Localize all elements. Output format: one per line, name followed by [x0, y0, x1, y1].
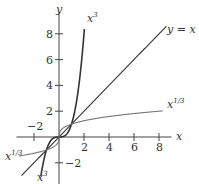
identity-label: y = x: [166, 23, 196, 36]
y-tick-label: −2: [65, 157, 81, 170]
y-tick-label: 6: [46, 54, 53, 67]
cube-label-bottom: x3: [37, 170, 48, 184]
axes: [17, 13, 172, 184]
cube-label-top: x3: [87, 11, 98, 25]
curve-x3: [41, 29, 84, 176]
curve-cbrtx: [19, 111, 163, 156]
x-tick-label: −2: [27, 120, 43, 133]
curves: [19, 26, 167, 176]
x-tick-label: 6: [131, 141, 138, 154]
x-axis-label: x: [176, 130, 183, 143]
cbrt-label-left: x1/3: [5, 149, 23, 163]
x-tick-label: 2: [81, 141, 88, 154]
y-axis-label: y: [55, 3, 63, 16]
y-tick-label: 4: [46, 79, 53, 92]
y-tick-label: 8: [46, 28, 53, 41]
x-tick-label: 8: [156, 141, 163, 154]
function-plot: −22468−22468 y x x3 y = x x1/3 x1/3 x3: [0, 0, 199, 184]
x-tick-label: 4: [106, 141, 113, 154]
y-tick-label: 2: [46, 105, 53, 118]
curve-x: [22, 26, 167, 176]
cbrt-label-right: x1/3: [167, 97, 185, 111]
